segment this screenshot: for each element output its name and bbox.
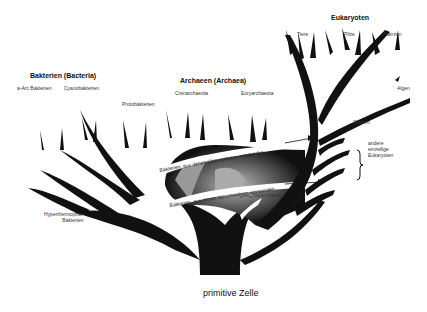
group-label-archaea: Archaeen (Archaea) — [180, 77, 246, 84]
leaf-label-fungi: Pilze — [344, 32, 355, 37]
leaf-label-other-eukaryotes: andere einzellige Eukaryoten — [368, 140, 393, 158]
root-label: primitive Zelle — [203, 289, 259, 298]
leaf-label-ciliates: Ciliaten — [353, 120, 370, 125]
bacteria-trunk — [75, 211, 200, 260]
group-label-eukarya: Eukaryoten — [331, 14, 369, 21]
brace — [357, 150, 363, 180]
leaf-label-plants: Pflanzen — [382, 32, 401, 37]
leaf-label-crenarchaeota: Crenarchaeota — [175, 91, 208, 96]
leaf-label-proteobacteria: Protobakterien — [122, 102, 155, 107]
leaf-label-cyanobacteria: Cyanobakterien — [64, 86, 99, 91]
leaf-label-algae: Algen — [397, 86, 410, 91]
leaf-label-euryarchaeota: Euryarchaeota — [241, 91, 274, 96]
leaf-label-animals: Tiere — [297, 32, 308, 37]
leaf-label-hyperthermophilic: Hyperthermophile Bakterien — [44, 211, 83, 223]
group-label-bacteria: Bakterien (Bacteria) — [30, 72, 96, 79]
leaf-label-bacteria-a: a-Arc Bakterien — [17, 86, 51, 91]
tree-of-life-diagram — [0, 0, 427, 312]
